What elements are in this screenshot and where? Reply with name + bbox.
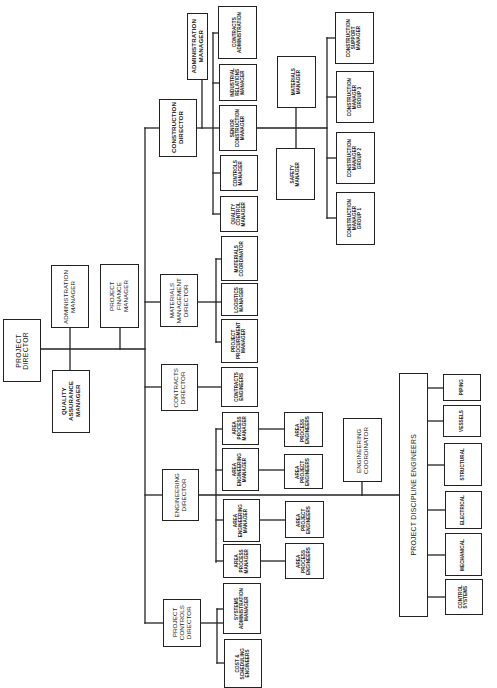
node-label: CONSTRUCTION MANAGER GROUP 1 bbox=[348, 199, 362, 237]
org-box-contracts-administration: CONTRACTS ADMINISTRATION bbox=[218, 6, 257, 59]
node-label: AREA PROCESS ENGINEERS bbox=[297, 547, 311, 575]
node-label: SYSTEMS ADMINISTRATION MANAGER bbox=[235, 588, 249, 629]
node-label: CONTROL SYSTEMS bbox=[459, 585, 469, 608]
org-box-safety-manager: SAFETY MANAGER bbox=[276, 148, 315, 200]
node-label: AREA PROJECT ENGINEERS bbox=[297, 506, 311, 534]
node-label: QUALITY ASSURANCE MANAGER bbox=[61, 381, 81, 421]
node-label: ELECTRICAL bbox=[461, 495, 466, 525]
org-box-engineering-coordinator: ENGINEERING COORDINATOR bbox=[343, 418, 382, 482]
node-label: MATERIALS MANAGER bbox=[292, 68, 302, 95]
org-box-area-project-engineers: AREA PROJECT ENGINEERS bbox=[284, 454, 323, 489]
node-label: INDUSTRIAL RELATIONS MANAGER bbox=[231, 68, 245, 97]
node-label: AREA PROCESS MANAGER bbox=[233, 416, 247, 440]
org-box-systems-administration-manager: SYSTEMS ADMINISTRATION MANAGER bbox=[223, 583, 261, 634]
node-label: CONTRACTS ADMINISTRATION bbox=[233, 12, 243, 53]
node-label: CONTRACTS DIRECTOR bbox=[173, 368, 187, 407]
node-label: STRUCTURAL bbox=[461, 448, 466, 480]
org-box-area-process-engineers: AREA PROCESS ENGINEERS bbox=[284, 412, 323, 447]
org-box-piping: PIPING bbox=[443, 374, 481, 401]
org-box-area-process-engineers: AREA PROCESS ENGINEERS bbox=[285, 543, 324, 579]
node-label: MECHANICAL bbox=[461, 539, 466, 571]
node-label: ENGINEERING DIRECTOR bbox=[174, 473, 188, 517]
org-box-vessels: VESSELS bbox=[443, 405, 481, 437]
org-box-project-controls-director: PROJECT CONTROLS DIRECTOR bbox=[163, 599, 201, 647]
org-box-quality-control-manager: QUALITY CONTROL MANAGER bbox=[220, 196, 258, 232]
node-label: CONTROLS MANAGER bbox=[234, 160, 244, 187]
node-label: AREA ENGINEERING MANAGER bbox=[233, 453, 247, 486]
org-box-structural: STRUCTURAL bbox=[444, 443, 482, 486]
org-box-materials-manager: MATERIALS MANAGER bbox=[277, 56, 316, 108]
org-box-area-process-manager: AREA PROCESS MANAGER bbox=[222, 412, 259, 445]
node-label: AREA PROCESS ENGINEERS bbox=[296, 416, 310, 444]
org-box-area-engineering-manager: AREA ENGINEERING MANAGER bbox=[222, 448, 259, 491]
node-label: CONSTRUCTION MANAGER GROUP 2 bbox=[348, 139, 362, 177]
node-label: ADMINISTRATION MANAGER bbox=[191, 19, 205, 74]
node-label: MATERIALS COORDINATOR bbox=[235, 241, 245, 276]
node-label: QUALITY CONTROL MANAGER bbox=[232, 202, 246, 226]
node-label: ADMINISTRATION MANAGER bbox=[63, 270, 77, 324]
org-box-area-process-manager: AREA PROCESS MANAGER bbox=[223, 544, 261, 578]
node-label: AREA ENGINEERING MANAGER bbox=[234, 504, 248, 537]
org-box-controls-manager: CONTROLS MANAGER bbox=[220, 155, 258, 191]
org-box-cost-scheduling-engineers: COST & SCHEDULING ENGINEERS bbox=[224, 639, 262, 688]
org-box-area-project-engineers: AREA PROJECT ENGINEERS bbox=[285, 501, 324, 538]
org-box-senior-construction-manager: SENIOR CONSTRUCTION MANAGER bbox=[219, 105, 257, 151]
org-box-project-finance-manager: PROJECT FINANCE MANAGER bbox=[100, 264, 139, 328]
node-label: CONSTRUCTION DIRECTOR bbox=[171, 102, 185, 153]
node-label: PROJECT DISCIPLINE ENGINEERS bbox=[410, 434, 417, 556]
node-label: LOGISTICS MANAGER bbox=[235, 287, 245, 313]
org-box-contracts-engineers: CONTRACTS ENGINEERS bbox=[221, 367, 258, 407]
org-box-control-systems: CONTROL SYSTEMS bbox=[445, 579, 483, 615]
node-label: SAFETY MANAGER bbox=[291, 162, 301, 186]
node-label: ENGINEERING COORDINATOR bbox=[356, 427, 370, 474]
node-label: VESSELS bbox=[460, 410, 465, 432]
org-box-project-discipline-engineers: PROJECT DISCIPLINE ENGINEERS bbox=[399, 373, 428, 617]
node-label: SENIOR CONSTRUCTION MANAGER bbox=[231, 109, 245, 147]
org-box-electrical: ELECTRICAL bbox=[445, 491, 482, 529]
node-label: AREA PROCESS MANAGER bbox=[235, 549, 249, 573]
node-label: PROJECT CONTROLS DIRECTOR bbox=[172, 605, 192, 640]
org-box-construction-manager-group-1: CONSTRUCTION MANAGER GROUP 1 bbox=[336, 192, 375, 245]
node-label: CONSTRUCTION SUPPORT MANAGER bbox=[347, 19, 361, 57]
node-label: PROJECT FINANCE MANAGER bbox=[109, 280, 129, 312]
node-label: AREA PROJECT ENGINEERS bbox=[296, 458, 310, 486]
node-label: PIPING bbox=[460, 379, 465, 395]
org-box-project-procurement-manager: PROJECT PROCUREMENT MANAGER bbox=[221, 319, 258, 363]
org-box-contracts-director: CONTRACTS DIRECTOR bbox=[161, 364, 198, 411]
org-box-project-director: PROJECT DIRECTOR bbox=[3, 319, 41, 382]
node-label: PROJECT DIRECTOR bbox=[15, 332, 29, 370]
org-box-construction-director: CONSTRUCTION DIRECTOR bbox=[159, 99, 197, 157]
node-label: CONTRACTS ENGINEERS bbox=[235, 372, 245, 402]
org-box-industrial-relations-manager: INDUSTRIAL RELATIONS MANAGER bbox=[219, 64, 257, 101]
node-label: MATERIALS MANAGEMENT DIRECTOR bbox=[169, 278, 189, 323]
org-box-area-engineering-manager: AREA ENGINEERING MANAGER bbox=[223, 499, 260, 542]
node-label: CONSTRUCTION MANAGER GROUP 3 bbox=[348, 78, 362, 116]
org-box-mechanical: MECHANICAL bbox=[445, 533, 482, 576]
org-box-construction-manager-group-2: CONSTRUCTION MANAGER GROUP 2 bbox=[336, 132, 375, 184]
node-label: PROJECT PROCUREMENT MANAGER bbox=[232, 322, 246, 359]
org-box-materials-management-director: MATERIALS MANAGEMENT DIRECTOR bbox=[160, 274, 198, 327]
org-box-administration-manager: ADMINISTRATION MANAGER bbox=[51, 265, 89, 328]
org-box-engineering-director: ENGINEERING DIRECTOR bbox=[162, 469, 199, 521]
org-box-construction-manager-group-3: CONSTRUCTION MANAGER GROUP 3 bbox=[336, 71, 374, 123]
org-box-construction-support-manager: CONSTRUCTION SUPPORT MANAGER bbox=[335, 12, 374, 64]
org-box-construction-administration-manager: ADMINISTRATION MANAGER bbox=[187, 13, 208, 80]
node-label: COST & SCHEDULING ENGINEERS bbox=[236, 648, 250, 679]
org-box-materials-coordinator: MATERIALS COORDINATOR bbox=[221, 236, 258, 281]
org-box-quality-assurance-manager: QUALITY ASSURANCE MANAGER bbox=[52, 370, 90, 433]
org-box-logistics-manager: LOGISTICS MANAGER bbox=[221, 283, 258, 316]
